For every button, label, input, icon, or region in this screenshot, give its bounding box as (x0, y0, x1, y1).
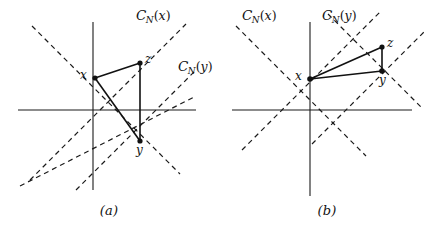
caption-a: (a) (0, 203, 218, 218)
cone-y-lower-line-a (76, 70, 196, 190)
cone-y-a-sub: N (188, 66, 196, 76)
cone-x-b-sub: N (252, 15, 260, 25)
cone-x-a-sub: N (146, 15, 154, 25)
cone-x-lower-line-a (32, 26, 180, 174)
cone-y-b-paren-close: ) (352, 8, 357, 23)
panel-a-triangle (95, 63, 140, 141)
cone-y-b-sub: N (332, 15, 340, 25)
panel-b-triangle (310, 47, 382, 79)
caption-b: (b) (218, 203, 436, 218)
point-x-dot-a (92, 75, 97, 80)
point-label-z-a: z (145, 53, 151, 65)
point-z-dot-a (137, 60, 142, 65)
segment-x-z-a (95, 63, 140, 78)
point-label-x-a: x (80, 69, 87, 81)
panel-b-axes (232, 22, 412, 196)
cone-x-b-arg: x (265, 8, 272, 23)
label-cone-x-a: CN(x) (136, 9, 171, 25)
cone-y-a-cal: C (178, 58, 188, 74)
cone-x-b-cal: C (242, 7, 252, 23)
cone-x-a-paren-close: ) (166, 8, 171, 23)
panel-b-cone-lines (236, 12, 424, 156)
label-cone-x-b: CN(x) (242, 9, 277, 25)
cone-y-a-arg: y (201, 59, 208, 74)
cone-y-b-arg: y (345, 8, 352, 23)
cone-y-right-line-b (312, 32, 424, 144)
point-label-x-b: x (295, 70, 302, 82)
label-cone-y-b: CN(y) (322, 9, 357, 25)
point-label-y-a: y (136, 144, 143, 156)
point-label-z-b: z (387, 37, 393, 49)
cone-x-a-arg: x (159, 8, 166, 23)
panel-a-cone-lines (20, 24, 196, 190)
panel-a: CN(x) CN(y) x z y (a) (0, 0, 218, 240)
cone-x-b-paren-close: ) (272, 8, 277, 23)
cone-x-a-cal: C (136, 7, 146, 23)
cone-y-a-paren-close: ) (208, 59, 213, 74)
figure-container: CN(x) CN(y) x z y (a) (0, 0, 436, 240)
label-cone-y-a: CN(y) (178, 60, 213, 76)
point-label-y-b: y (379, 74, 386, 86)
cone-y-b-cal: C (322, 7, 332, 23)
point-z-dot-b (379, 44, 384, 49)
point-x-dot-b (307, 76, 313, 82)
cone-y-left-line-b (328, 14, 422, 108)
panel-b: CN(x) CN(y) x z y (b) (218, 0, 436, 240)
